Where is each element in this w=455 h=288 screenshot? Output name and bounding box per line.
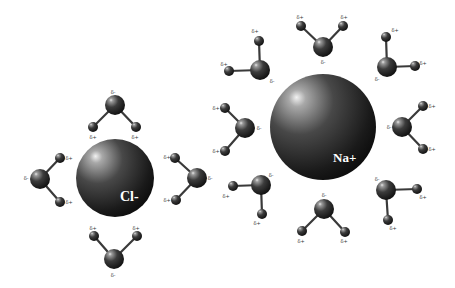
partial-positive-charge-label: δ+ (163, 154, 170, 160)
water-molecule-sodium-lower-right: δ-δ+δ+ (375, 176, 427, 231)
sodium-ion-label: Na+ (333, 150, 356, 165)
partial-negative-charge-label: δ- (375, 76, 380, 82)
hydrogen-atom (88, 122, 98, 132)
oxygen-atom (104, 249, 124, 269)
oxygen-atom (30, 169, 50, 189)
hydrogen-atom (254, 36, 264, 46)
partial-negative-charge-label: δ- (387, 124, 392, 130)
hydrogen-atom (171, 195, 181, 205)
hydrogen-atom (131, 122, 141, 132)
oxygen-atom (377, 57, 397, 77)
hydrogen-atom (297, 226, 307, 236)
partial-positive-charge-label: δ+ (428, 103, 435, 109)
partial-negative-charge-label: δ- (24, 175, 29, 181)
oxygen-atom (235, 118, 255, 138)
hydrogen-atom (412, 184, 422, 194)
partial-positive-charge-label: δ+ (65, 155, 72, 161)
hydrogen-atom (220, 146, 230, 156)
oxygen-atom (314, 199, 334, 219)
water-molecule-chloride-left: δ-δ+δ+ (24, 153, 73, 207)
partial-negative-charge-label: δ- (111, 89, 116, 95)
partial-positive-charge-label: δ+ (419, 194, 426, 200)
oxygen-atom (313, 37, 333, 57)
partial-positive-charge-label: δ+ (131, 134, 138, 140)
partial-positive-charge-label: δ+ (297, 238, 304, 244)
partial-positive-charge-label: δ+ (212, 105, 219, 111)
partial-positive-charge-label: δ+ (419, 60, 426, 66)
hydrogen-atom (257, 209, 267, 219)
oxygen-atom (250, 60, 270, 80)
hydrogen-atom (132, 231, 142, 241)
hydrogen-atom (228, 181, 238, 191)
partial-positive-charge-label: δ+ (222, 193, 229, 199)
oxygen-atom (376, 180, 396, 200)
partial-positive-charge-label: δ+ (65, 199, 72, 205)
oxygen-atom (187, 168, 207, 188)
sodium-ion-sphere (270, 74, 376, 180)
hydrogen-atom (418, 101, 428, 111)
hydrogen-atom (220, 103, 230, 113)
partial-negative-charge-label: δ- (208, 175, 213, 181)
partial-negative-charge-label: δ- (257, 125, 262, 131)
oxygen-atom (251, 175, 271, 195)
hydrogen-atom (340, 227, 350, 237)
hydrogen-atom (418, 144, 428, 154)
water-molecule-sodium-lower-left: δ-δ+δ+ (222, 172, 273, 226)
hydrogen-atom (381, 32, 391, 42)
partial-positive-charge-label: δ+ (391, 27, 398, 33)
partial-positive-charge-label: δ+ (89, 134, 96, 140)
partial-positive-charge-label: δ+ (89, 225, 96, 231)
oxygen-atom (105, 95, 125, 115)
hydrogen-atom (55, 153, 65, 163)
chloride-ion: Cl- (76, 139, 154, 217)
partial-negative-charge-label: δ- (375, 176, 380, 182)
water-molecule-sodium-left: δ-δ+δ+ (212, 103, 261, 156)
hydrogen-atom (224, 66, 234, 76)
partial-negative-charge-label: δ- (270, 78, 275, 84)
water-molecule-sodium-top: δ-δ+δ+ (296, 14, 348, 65)
partial-positive-charge-label: δ+ (132, 225, 139, 231)
water-molecule-chloride-bottom: δ-δ+δ+ (89, 225, 142, 278)
oxygen-atom (392, 117, 412, 137)
hydrogen-atom (383, 215, 393, 225)
chloride-ion-sphere (76, 139, 154, 217)
partial-positive-charge-label: δ+ (251, 28, 258, 34)
water-molecules: δ-δ+δ+δ-δ+δ+δ-δ+δ+δ-δ+δ+δ-δ+δ+δ-δ+δ+δ-δ+… (24, 14, 436, 278)
partial-negative-charge-label: δ- (321, 59, 326, 65)
partial-negative-charge-label: δ- (269, 172, 274, 178)
partial-positive-charge-label: δ+ (212, 148, 219, 154)
hydrogen-atom (89, 231, 99, 241)
partial-positive-charge-label: δ+ (296, 14, 303, 20)
hydrogen-atom (55, 197, 65, 207)
partial-positive-charge-label: δ+ (340, 238, 347, 244)
partial-positive-charge-label: δ+ (163, 197, 170, 203)
hydrogen-atom (170, 153, 180, 163)
water-molecule-sodium-upper-right: δ-δ+δ+ (375, 27, 427, 82)
hydrogen-atom (296, 21, 306, 31)
partial-positive-charge-label: δ+ (389, 225, 396, 231)
water-molecule-sodium-right: δ-δ+δ+ (387, 101, 436, 154)
partial-positive-charge-label: δ+ (220, 61, 227, 67)
sodium-ion: Na+ (270, 74, 376, 180)
water-molecule-chloride-right: δ-δ+δ+ (163, 153, 212, 205)
hydrogen-atom (338, 21, 348, 31)
water-molecule-chloride-top: δ-δ+δ+ (88, 89, 141, 140)
ion-hydration-diagram: δ-δ+δ+δ-δ+δ+δ-δ+δ+δ-δ+δ+δ-δ+δ+δ-δ+δ+δ-δ+… (0, 0, 455, 288)
partial-negative-charge-label: δ- (111, 272, 116, 278)
partial-negative-charge-label: δ- (322, 192, 327, 198)
partial-positive-charge-label: δ+ (428, 146, 435, 152)
partial-positive-charge-label: δ+ (340, 14, 347, 20)
water-molecule-sodium-bottom: δ-δ+δ+ (297, 192, 350, 244)
chloride-ion-label: Cl- (120, 189, 139, 204)
water-molecule-sodium-upper-left: δ-δ+δ+ (220, 28, 274, 84)
partial-positive-charge-label: δ+ (253, 220, 260, 226)
